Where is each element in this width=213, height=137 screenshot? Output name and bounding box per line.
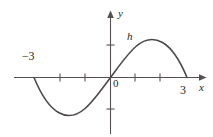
x-intercept-label-right: 3 [180, 84, 186, 96]
curve-label-h: h [127, 31, 133, 42]
graph-canvas [0, 0, 213, 137]
x-intercept-label-left: −3 [22, 50, 34, 62]
x-axis-arrowhead [199, 74, 207, 81]
y-axis-label: y [118, 8, 123, 19]
y-axis-arrowhead [107, 11, 114, 19]
graph-figure: y x h 0 −3 3 [0, 0, 213, 137]
x-axis-label: x [199, 82, 204, 93]
origin-label: 0 [113, 78, 119, 89]
